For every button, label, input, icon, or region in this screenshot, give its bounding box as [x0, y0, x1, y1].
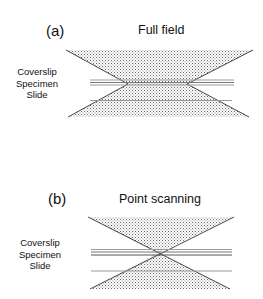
- full-field-beam: [66, 50, 253, 117]
- panel-a-title: Full field: [138, 24, 185, 37]
- label-specimen: Specimen: [15, 249, 65, 261]
- label-coverslip: Coverslip: [12, 66, 62, 78]
- label-specimen: Specimen: [12, 78, 62, 90]
- label-slide: Slide: [15, 260, 65, 272]
- panel-b-title: Point scanning: [119, 193, 201, 206]
- panel-b-layer-labels: Coverslip Specimen Slide: [15, 237, 65, 272]
- point-scanning-beam: [88, 217, 234, 289]
- panel-a-letter: (a): [46, 23, 64, 38]
- upper-cone: [88, 217, 234, 253]
- label-coverslip: Coverslip: [15, 237, 65, 249]
- panel-a-layer-labels: Coverslip Specimen Slide: [12, 66, 62, 101]
- upper-cone: [66, 50, 253, 84]
- panel-b-letter: (b): [48, 191, 66, 206]
- label-slide: Slide: [12, 89, 62, 101]
